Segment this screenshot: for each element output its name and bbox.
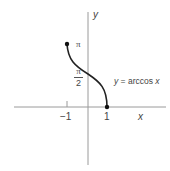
equation-body: = arccos (118, 76, 155, 86)
x-tick-neg-one-label: −1 (60, 112, 71, 122)
half-pi-numerator: π (74, 67, 83, 76)
equation-x: x (155, 76, 159, 86)
y-tick-pi-label: π (76, 40, 81, 49)
x-axis-label: x (138, 112, 143, 122)
endpoint-one-zero (105, 105, 109, 109)
endpoint-neg-one-pi (65, 42, 69, 46)
x-tick-one-label: 1 (104, 112, 110, 122)
half-pi-denominator: 2 (74, 79, 83, 88)
arccos-curve (67, 44, 107, 107)
y-axis-label: y (93, 10, 98, 20)
y-tick-half-pi-label: π 2 (74, 67, 83, 88)
curve-equation-label: y = arccos x (114, 77, 160, 86)
